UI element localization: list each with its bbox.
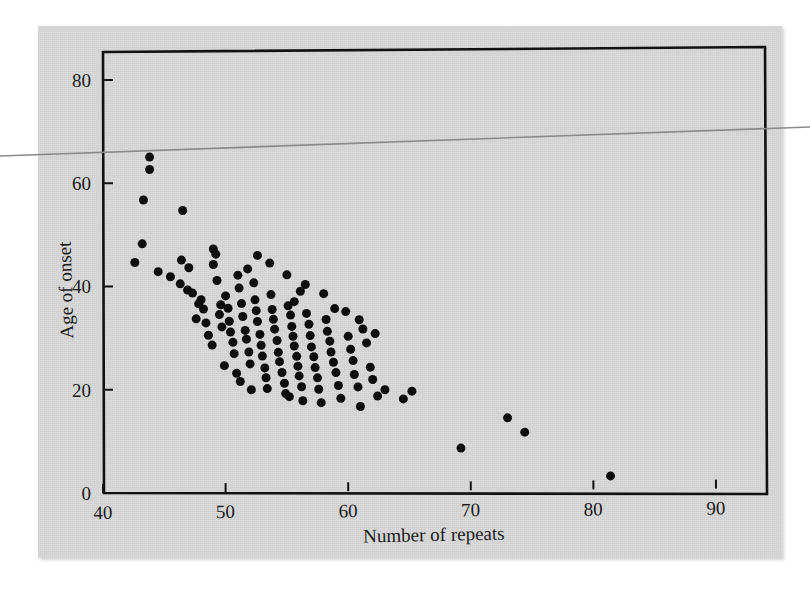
scanned-page-region bbox=[38, 26, 782, 558]
